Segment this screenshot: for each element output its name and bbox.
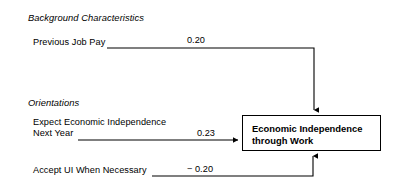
coefficient-expect-economic-independence: 0.23: [186, 128, 226, 139]
group-heading-orientations: Orientations: [28, 97, 79, 108]
outcome-node-label-line1: Economic Independence: [252, 123, 362, 134]
diagram-connector-lines: [0, 0, 394, 189]
edge-previous-job-pay: [107, 48, 314, 110]
path-diagram-figure: Background Characteristics Previous Job …: [0, 0, 394, 189]
node-label-accept-ui-when-necessary: Accept UI When Necessary: [33, 165, 147, 176]
coefficient-previous-job-pay: 0.20: [176, 35, 216, 46]
node-label-previous-job-pay: Previous Job Pay: [33, 37, 105, 48]
coefficient-accept-ui-when-necessary: − 0.20: [176, 164, 224, 175]
outcome-node-label-line2: through Work: [252, 135, 313, 146]
group-heading-background-characteristics: Background Characteristics: [28, 12, 144, 23]
node-label-expect-economic-independence-line1: Expect Economic Independence: [33, 117, 166, 128]
node-label-expect-economic-independence-line2: Next Year: [33, 128, 73, 139]
outcome-node-economic-independence-through-work: Economic Independencethrough Work: [242, 115, 381, 151]
outcome-node-label: Economic Independencethrough Work: [252, 123, 362, 146]
